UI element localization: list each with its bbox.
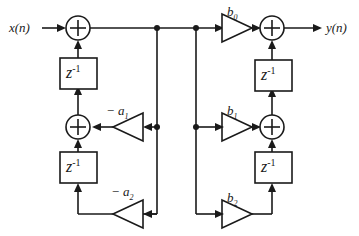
coefficient-label-b2: b2 [227,191,238,208]
arrowhead-into-ffdelay2 [268,183,276,192]
delay-label-feedback-1: z-1 [66,64,81,81]
arrowhead-into-neg-a1 [143,123,152,131]
coefficient-label-b1: b1 [227,104,238,121]
adder-output [260,16,284,40]
adder-input [66,16,90,40]
diagram-canvas [0,0,359,236]
delay-label-feedforward-1: z-1 [261,66,276,83]
arrowhead-ffdelay1-to-adder-output [268,40,276,49]
input-signal-label: x(n) [9,21,30,34]
arrowhead-delay2-to-adder-feedback [74,139,82,148]
adder-feedback [66,115,90,139]
arrowhead-neg-a1-to-adder-feedback [92,123,101,131]
arrowhead-into-delay2 [74,183,82,192]
arrowhead-input-to-adder [57,24,66,32]
output-signal-label: y(n) [326,21,347,34]
node-dot-top-feedback [154,25,160,31]
adder-feedforward [260,115,284,139]
coefficient-label-neg-a2: − a2 [111,185,134,202]
coefficient-label-b0: b0 [227,5,238,22]
amplifier-neg-a2 [113,200,143,228]
arrowhead-output [313,24,322,32]
arrowhead-into-neg-a2 [143,210,152,218]
coefficient-label-neg-a1: − a1 [106,104,129,121]
node-dot-top-feedforward [193,25,199,31]
signal-flow-diagram: x(n) y(n) z-1 z-1 z-1 z-1 − a1 − a2 b0 b… [0,0,359,236]
arrowhead-delay1-to-adder-input [74,40,82,49]
arrowhead-ffdelay2-to-adder-ff [268,139,276,148]
delay-label-feedforward-2: z-1 [261,158,276,175]
delay-label-feedback-2: z-1 [66,158,81,175]
